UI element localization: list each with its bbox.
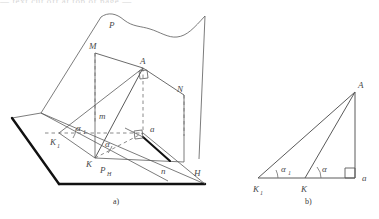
label-b-point-k1: K 1: [252, 184, 263, 196]
label-b-point-k: K: [300, 184, 308, 194]
label-point-k1: K 1: [49, 137, 60, 149]
caption-panel-b: b): [305, 197, 312, 206]
plane-p-left-edge: [41, 17, 101, 113]
label-point-n: N: [176, 84, 184, 94]
panel-a-group: P M A N m a α 1 α K 1 K P H n H: [12, 14, 205, 184]
label-b-point-a-right: a: [362, 173, 367, 183]
label-b-point-a-top: A: [357, 80, 364, 90]
segment-line-n-thick: [143, 137, 170, 161]
svg-text:P: P: [99, 165, 106, 175]
label-point-k: K: [85, 159, 93, 169]
angle-arc-b-alpha1: [276, 170, 278, 178]
label-point-a-foot: a: [150, 124, 155, 134]
plane-p-right-edge: [199, 16, 205, 159]
triangle-hypotenuse-k-A: [305, 92, 355, 178]
segment-k1-k: [59, 133, 95, 158]
svg-text:α: α: [76, 123, 81, 133]
svg-text:K: K: [49, 137, 57, 147]
figure-container: P M A N m a α 1 α K 1 K P H n H A: [0, 0, 379, 219]
caption-panel-a: a): [113, 197, 120, 206]
label-b-angle-alpha1: α 1: [281, 164, 291, 176]
segment-k1-a: [59, 68, 143, 133]
triangle-hypotenuse-k1-A: [258, 92, 355, 178]
svg-text:H: H: [106, 171, 112, 177]
label-b-angle-alpha: α: [322, 164, 327, 174]
label-line-m: m: [99, 111, 106, 121]
label-line-n: n: [161, 166, 166, 176]
label-plane-h: H: [193, 168, 201, 178]
label-angle-alpha: α: [105, 139, 110, 149]
label-trace-ph: P H: [99, 165, 112, 177]
svg-text:1: 1: [57, 143, 60, 149]
right-angle-marker-b: [345, 168, 355, 178]
label-plane-p: P: [108, 20, 115, 30]
right-angle-marker-at-a-point: [139, 70, 148, 79]
angle-arc-b-alpha: [317, 167, 321, 178]
svg-text:α: α: [281, 164, 286, 174]
plane-p-wavy-top-edge: [101, 14, 205, 37]
segment-m-a: [95, 53, 143, 68]
label-point-m: M: [88, 41, 97, 51]
plane-h-left-thick-edge: [12, 118, 59, 184]
svg-text:1: 1: [260, 190, 263, 196]
figure-svg: P M A N m a α 1 α K 1 K P H n H A: [0, 0, 379, 219]
label-point-a: A: [139, 56, 146, 66]
svg-text:K: K: [252, 184, 260, 194]
svg-text:1: 1: [83, 129, 86, 135]
svg-text:1: 1: [288, 170, 291, 176]
panel-b-group: A α 1 α K 1 K a: [252, 80, 367, 196]
